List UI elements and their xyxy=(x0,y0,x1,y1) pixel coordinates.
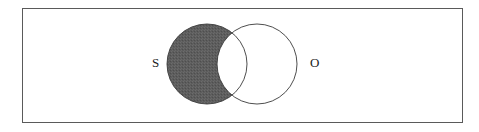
venn-diagram xyxy=(0,0,479,132)
venn-label-o: O xyxy=(310,56,320,69)
venn-region-s-only xyxy=(0,0,479,132)
venn-label-s: S xyxy=(152,56,159,69)
figure-canvas: S O xyxy=(0,0,479,132)
